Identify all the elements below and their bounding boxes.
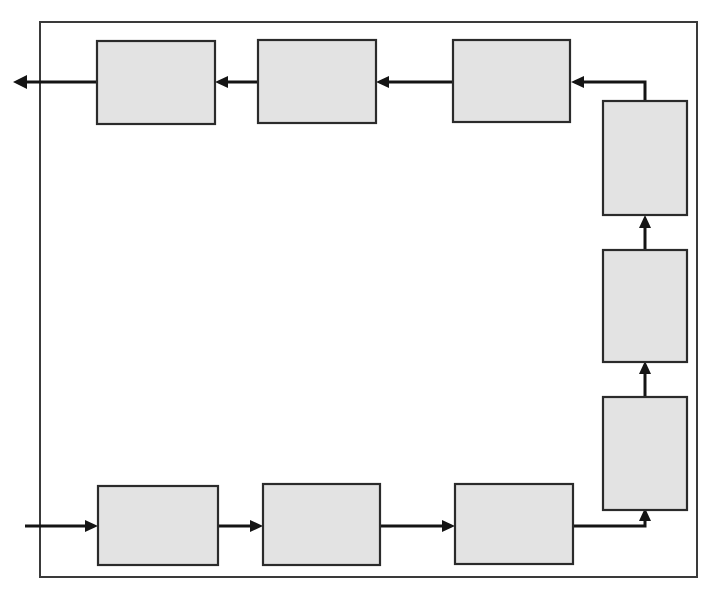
- process-box-bottom-2[interactable]: [263, 484, 380, 565]
- process-box-top-3[interactable]: [453, 40, 570, 122]
- process-box-right-lower[interactable]: [603, 397, 687, 510]
- process-box-top-2[interactable]: [258, 40, 376, 123]
- connector-input-arrow: [25, 520, 98, 532]
- diagram-canvas: [0, 0, 715, 598]
- process-flow-diagram: [0, 0, 715, 598]
- process-box-right-upper[interactable]: [603, 101, 687, 215]
- connector-bottom1-to-bottom2: [218, 520, 263, 532]
- connector-right-middle-to-right-upper: [639, 215, 651, 250]
- process-box-top-1[interactable]: [97, 41, 215, 124]
- connector-top3-to-top2: [376, 76, 453, 88]
- process-box-bottom-3[interactable]: [455, 484, 573, 564]
- process-box-right-middle[interactable]: [603, 250, 687, 362]
- connector-right-lower-to-right-middle: [639, 361, 651, 397]
- connector-right-upper-to-top3: [571, 76, 645, 101]
- process-box-bottom-1[interactable]: [98, 486, 218, 565]
- connector-bottom2-to-bottom3: [380, 520, 455, 532]
- connector-top2-to-top1: [215, 76, 258, 88]
- connector-output-arrow: [13, 75, 97, 89]
